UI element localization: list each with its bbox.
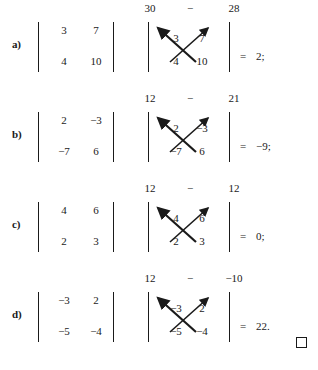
determinant-bar-left [148,22,149,72]
matrix-cell-a12: 2 [93,294,99,306]
determinant-annotated-d: 12 − −10 −3 2 −5 −4 [148,292,230,342]
product-right-a: 28 [229,2,240,14]
matrix-cell-a12: 6 [199,212,205,224]
example-row-d: d) −3 2 −5 −4 12 − −10 [0,270,318,360]
minus-operator-b: − [187,92,193,104]
determinant-bar-left [38,22,39,72]
item-label-c: c) [12,218,20,230]
minus-operator-d: − [187,272,193,284]
item-label-a: a) [12,38,21,50]
determinant-bar-left [38,112,39,162]
determinant-bar-right [113,202,114,252]
determinant-bar-left [148,202,149,252]
matrix-cell-a21: −5 [58,325,70,337]
matrix-cell-a22: 3 [93,235,99,247]
product-left-b: 12 [145,92,156,104]
matrix-cell-a21: −5 [170,325,182,337]
determinant-bar-left [148,292,149,342]
matrix-cell-a12: 6 [93,204,99,216]
equals-sign: = [240,230,256,242]
determinant-annotated-c: 12 − 12 4 6 2 3 [148,202,230,252]
result-value: 0; [256,230,265,242]
qed-box-icon [296,337,307,348]
determinant-plain-c: 4 6 2 3 [38,202,114,252]
matrix-cell-a22: −4 [90,325,102,337]
result-value: −9; [256,140,271,152]
equals-sign: = [240,50,256,62]
result-value: 2; [256,50,265,62]
matrix-cell-a21: −7 [170,145,182,157]
matrix-cell-a21: 2 [61,235,67,247]
matrix-cell-a12: 7 [93,24,99,36]
minus-operator-c: − [187,182,193,194]
result-value: 22. [256,320,270,332]
product-right-d: −10 [225,272,242,284]
matrix-cell-a21: 4 [61,55,67,67]
determinant-bar-right [229,22,230,72]
determinant-annotated-a: 30 − 28 3 7 4 10 [148,22,230,72]
matrix-cell-a11: 4 [173,212,179,224]
determinant-bar-right [229,202,230,252]
matrix-cell-a22: 6 [199,145,205,157]
matrix-cell-a12: 7 [199,32,205,44]
matrix-cell-a22: 6 [93,145,99,157]
determinant-bar-right [113,22,114,72]
matrix-cell-a12: 2 [199,302,205,314]
product-right-b: 21 [229,92,240,104]
determinant-bar-left [148,112,149,162]
matrix-cell-a22: 10 [197,55,208,67]
equals-sign: = [240,140,256,152]
product-left-c: 12 [145,182,156,194]
determinant-bar-right [113,292,114,342]
matrix-cell-a11: 2 [61,114,67,126]
determinant-bar-right [113,112,114,162]
result-a: =2; [240,50,265,62]
matrix-cell-a21: −7 [58,145,70,157]
item-label-d: d) [12,308,21,320]
determinant-plain-d: −3 2 −5 −4 [38,292,114,342]
result-d: =22. [240,320,270,332]
determinant-plain-a: 3 7 4 10 [38,22,114,72]
determinant-plain-b: 2 −3 −7 6 [38,112,114,162]
item-label-b: b) [12,128,21,140]
determinant-bar-left [38,292,39,342]
matrix-cell-a11: 3 [173,32,179,44]
matrix-cell-a11: 2 [173,122,179,134]
matrix-cell-a22: 3 [199,235,205,247]
result-c: =0; [240,230,265,242]
minus-operator-a: − [187,2,193,14]
equals-sign: = [240,320,256,332]
matrix-cell-a11: −3 [170,302,182,314]
matrix-cell-a12: −3 [90,114,102,126]
result-b: =−9; [240,140,271,152]
matrix-cell-a21: 2 [173,235,179,247]
matrix-cell-a11: 4 [61,204,67,216]
determinant-bar-right [229,292,230,342]
product-right-c: 12 [229,182,240,194]
matrix-cell-a11: 3 [61,24,67,36]
product-left-d: 12 [145,272,156,284]
determinant-worksheet-page: a) 3 7 4 10 30 − 28 [0,0,318,370]
example-row-a: a) 3 7 4 10 30 − 28 [0,0,318,90]
determinant-bar-right [229,112,230,162]
determinant-annotated-b: 12 − 21 2 −3 −7 6 [148,112,230,162]
matrix-cell-a12: −3 [196,122,208,134]
example-row-c: c) 4 6 2 3 12 − 12 [0,180,318,270]
matrix-cell-a22: −4 [196,325,208,337]
matrix-cell-a21: 4 [173,55,179,67]
matrix-cell-a11: −3 [58,294,70,306]
determinant-bar-left [38,202,39,252]
matrix-cell-a22: 10 [91,55,102,67]
example-row-b: b) 2 −3 −7 6 12 − 21 [0,90,318,180]
product-left-a: 30 [145,2,156,14]
